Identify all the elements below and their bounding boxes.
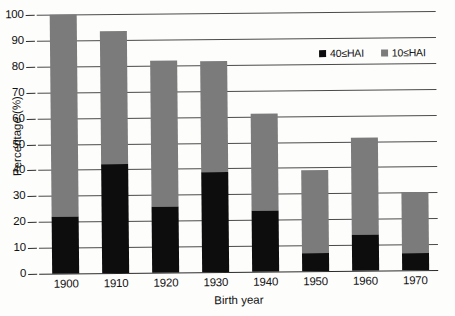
bar-segment-40hai <box>201 172 229 272</box>
x-tick-label: 1920 <box>141 276 191 288</box>
bar-group <box>100 14 129 273</box>
y-tick-mark <box>26 41 35 42</box>
legend-entry-40hai: 40≤HAI <box>319 47 364 59</box>
y-tick-label: 0 <box>2 268 26 280</box>
x-tick-label: 1940 <box>241 275 291 287</box>
y-tick-mark <box>27 144 36 145</box>
legend-label-10hai: 10≤HAI <box>392 46 426 58</box>
chart-skew-wrapper: 0102030405060708090100 19001910192019301… <box>0 0 455 316</box>
x-tick-label: 1930 <box>191 276 241 288</box>
bar-segment-40hai <box>402 253 429 270</box>
y-tick-label: 100 <box>0 9 24 21</box>
y-tick-label: 10 <box>2 242 26 254</box>
y-tick-label: 20 <box>2 216 26 228</box>
y-tick-mark <box>26 15 35 16</box>
bar-segment-40hai <box>52 216 80 273</box>
x-axis-title: Birth year <box>39 292 438 308</box>
y-tick-mark <box>27 196 36 197</box>
legend-entry-10hai: 10≤HAI <box>381 46 426 58</box>
bar-group <box>150 14 179 273</box>
bar-segment-10hai <box>301 170 329 253</box>
x-tick-label: 1900 <box>41 277 91 289</box>
y-tick-mark <box>27 118 36 119</box>
y-tick-mark <box>28 222 37 223</box>
legend-swatch-gray-icon <box>381 49 388 56</box>
legend-label-40hai: 40≤HAI <box>330 47 364 59</box>
y-tick-mark <box>28 248 37 249</box>
legend-swatch-black-icon <box>319 50 326 57</box>
bar-segment-10hai <box>251 114 279 211</box>
x-tick-label: 1910 <box>91 277 141 289</box>
bar-segment-10hai <box>150 60 178 207</box>
y-tick-label: 90 <box>0 35 24 47</box>
y-tick-mark <box>26 67 35 68</box>
y-tick-mark <box>26 93 35 94</box>
bar-segment-40hai <box>252 211 280 272</box>
bar-segment-40hai <box>352 234 379 271</box>
bar-segment-10hai <box>50 14 79 216</box>
y-tick-mark <box>28 274 37 275</box>
chart-legend: 40≤HAI 10≤HAI <box>319 46 426 59</box>
bar-segment-10hai <box>100 31 128 165</box>
y-tick-mark <box>27 170 36 171</box>
bar-group <box>200 13 229 272</box>
bar-segment-40hai <box>152 206 180 272</box>
bar-segment-10hai <box>401 192 429 253</box>
bar-segment-10hai <box>351 137 379 234</box>
bar-segment-40hai <box>101 164 129 273</box>
bar-segment-40hai <box>302 253 329 271</box>
bar-group <box>50 14 79 273</box>
bar-group <box>250 13 279 272</box>
x-tick-label: 1960 <box>340 274 390 286</box>
chart-figure: 0102030405060708090100 19001910192019301… <box>0 0 455 316</box>
x-tick-label: 1950 <box>291 275 341 287</box>
bar-segment-10hai <box>200 61 228 173</box>
y-axis-title: Percentage (%) <box>10 71 23 201</box>
x-tick-label: 1970 <box>390 274 440 286</box>
